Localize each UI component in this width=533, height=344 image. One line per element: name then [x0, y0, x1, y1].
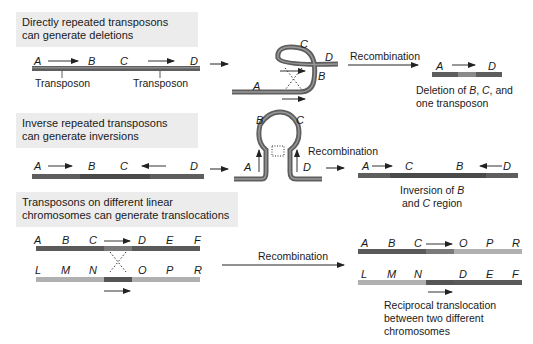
- title-line: can generate inversions: [22, 130, 192, 143]
- translocation-result-chromosomes: [358, 244, 522, 292]
- gene-label: O: [459, 237, 468, 249]
- gene-label: A: [361, 237, 368, 249]
- gene-label: C: [300, 38, 308, 50]
- gene-label: B: [456, 160, 463, 172]
- gene-label: D: [488, 60, 496, 72]
- diagram-graphics: [0, 0, 533, 344]
- gene-label: A: [362, 160, 369, 172]
- title-line: can generate deletions: [22, 29, 192, 42]
- gene-label: D: [503, 160, 511, 172]
- gene-label: C: [120, 160, 128, 172]
- transposon-label: Transposon: [35, 77, 90, 90]
- gene-label: B: [388, 237, 395, 249]
- gene-label: B: [88, 55, 95, 67]
- gene-label: F: [194, 234, 201, 246]
- translocation-panel-title: Transposons on different linear chromoso…: [16, 192, 238, 227]
- gene-label: R: [512, 237, 520, 249]
- gene-label: E: [486, 268, 493, 280]
- gene-label: C: [405, 160, 413, 172]
- recombination-label: Recombination: [308, 145, 378, 158]
- gene-label: R: [194, 264, 202, 276]
- deletion-panel-title: Directly repeated transposons can genera…: [16, 12, 198, 47]
- gene-label: B: [318, 70, 325, 82]
- transposon-label: Transposon: [133, 77, 188, 90]
- gene-label: L: [35, 264, 41, 276]
- recombination-label: Recombination: [258, 250, 328, 263]
- title-line: Inverse repeated transposons: [22, 117, 192, 130]
- gene-label: D: [190, 55, 198, 67]
- recombination-label: Recombination: [350, 50, 420, 63]
- inversion-panel-title: Inverse repeated transposons can generat…: [16, 113, 198, 148]
- gene-label: D: [303, 161, 311, 173]
- gene-label: A: [253, 80, 260, 92]
- gene-label: C: [120, 55, 128, 67]
- gene-label: D: [190, 160, 198, 172]
- gene-label: A: [244, 161, 251, 173]
- gene-label: C: [296, 114, 304, 126]
- gene-label: M: [387, 268, 396, 280]
- gene-label: A: [34, 55, 41, 67]
- gene-label: C: [414, 237, 422, 249]
- gene-label: N: [89, 264, 97, 276]
- deletion-caption: Deletion of B, C, and one transposon: [416, 84, 513, 110]
- title-line: chromosomes can generate translocations: [22, 209, 232, 222]
- deletion-initial-chromosome: [32, 61, 200, 78]
- gene-label: C: [89, 234, 97, 246]
- gene-label: D: [459, 268, 467, 280]
- gene-label: F: [512, 268, 519, 280]
- gene-label: L: [361, 268, 367, 280]
- inversion-caption: Inversion of B and C region: [400, 184, 464, 210]
- gene-label: D: [325, 51, 333, 63]
- title-line: Directly repeated transposons: [22, 16, 192, 29]
- gene-label: A: [34, 234, 41, 246]
- gene-label: P: [166, 264, 173, 276]
- gene-label: A: [436, 60, 443, 72]
- title-line: Transposons on different linear: [22, 196, 232, 209]
- gene-label: P: [486, 237, 493, 249]
- inversion-result-chromosome: [358, 166, 518, 178]
- translocation-caption: Reciprocal translocation between two dif…: [384, 299, 496, 338]
- gene-label: B: [62, 234, 69, 246]
- gene-label: O: [138, 264, 147, 276]
- gene-label: M: [61, 264, 70, 276]
- gene-label: A: [34, 160, 41, 172]
- gene-label: N: [414, 268, 422, 280]
- gene-label: B: [88, 160, 95, 172]
- gene-label: E: [166, 234, 173, 246]
- inversion-initial-chromosome: [32, 166, 204, 179]
- gene-label: D: [138, 234, 146, 246]
- gene-label: B: [256, 114, 263, 126]
